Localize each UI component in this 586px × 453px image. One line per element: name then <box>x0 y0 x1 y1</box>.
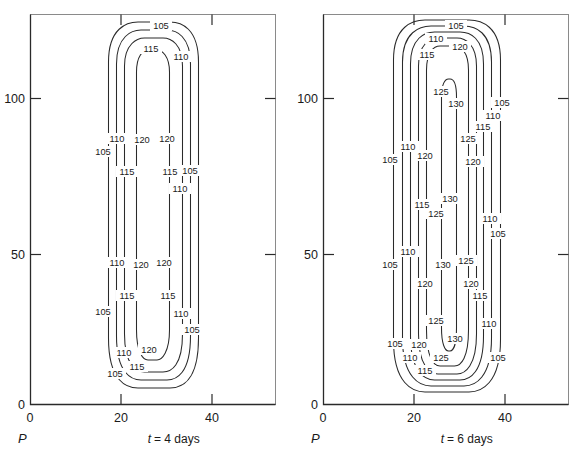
contour-label-left-7: 115 <box>116 166 138 177</box>
svg-text:130: 130 <box>447 334 463 344</box>
figure-contour-pair: 100 50 0 0 20 40 P t = 4 days <box>0 0 586 453</box>
contour-label-right-13: 120 <box>462 156 484 167</box>
svg-text:105: 105 <box>184 325 200 335</box>
svg-text:105: 105 <box>95 307 111 317</box>
contour-label-group-right: 105 110 120 115 125 130 105 110 115 125 … <box>379 20 513 376</box>
svg-text:120: 120 <box>134 135 150 145</box>
svg-text:125: 125 <box>433 87 449 97</box>
contour-120-left <box>137 50 170 360</box>
contour-label-left-5: 120 <box>156 133 178 144</box>
caption-var-right: t <box>441 432 445 446</box>
svg-text:105: 105 <box>382 155 398 165</box>
contour-label-right-6: 105 <box>491 97 513 108</box>
contour-label-right-3: 115 <box>416 49 438 60</box>
contour-label-left-4: 120 <box>131 134 153 145</box>
contour-label-right-4: 125 <box>430 86 452 97</box>
xaxis-name-right: P <box>311 431 320 446</box>
contour-label-right-23: 120 <box>414 278 436 289</box>
svg-text:105: 105 <box>448 21 464 31</box>
svg-text:110: 110 <box>401 142 416 152</box>
xtick-label-20-left: 20 <box>114 411 128 425</box>
svg-text:120: 120 <box>133 260 149 270</box>
svg-text:105: 105 <box>382 260 398 270</box>
xtick-label-0-right: 0 <box>320 411 327 425</box>
svg-text:110: 110 <box>173 184 188 194</box>
contour-label-right-8: 115 <box>472 121 494 132</box>
contour-110-left <box>117 30 191 380</box>
contour-label-right-2: 120 <box>449 41 471 52</box>
svg-text:105: 105 <box>387 339 403 349</box>
svg-text:120: 120 <box>452 42 468 52</box>
svg-text:110: 110 <box>117 348 132 358</box>
contour-label-left-12: 120 <box>130 259 152 270</box>
contour-label-left-15: 115 <box>157 290 179 301</box>
svg-text:125: 125 <box>460 134 476 144</box>
svg-text:120: 120 <box>159 134 175 144</box>
caption-var-left: t <box>148 432 152 446</box>
svg-text:105: 105 <box>95 147 111 157</box>
caption-text-left: = 4 days <box>154 432 200 446</box>
svg-text:115: 115 <box>473 291 488 301</box>
svg-text:105: 105 <box>153 21 169 31</box>
contour-label-right-18: 130 <box>439 193 461 204</box>
svg-text:110: 110 <box>483 214 498 224</box>
plot-area-left: 100 50 0 0 20 40 P t = 4 days <box>0 0 293 453</box>
contour-label-left-2: 110 <box>170 51 192 62</box>
svg-text:110: 110 <box>482 319 497 329</box>
svg-text:130: 130 <box>448 99 464 109</box>
svg-text:110: 110 <box>401 247 416 257</box>
ytick-label-50-right: 50 <box>304 248 318 262</box>
ytick-label-0-right: 0 <box>311 398 318 412</box>
contour-label-right-22: 125 <box>455 255 477 266</box>
contour-label-right-11: 120 <box>414 150 436 161</box>
svg-text:110: 110 <box>174 309 189 319</box>
svg-text:120: 120 <box>156 258 172 268</box>
contour-label-right-0: 105 <box>445 20 467 31</box>
xaxis-name-left: P <box>18 431 27 446</box>
contour-label-left-11: 110 <box>106 257 128 268</box>
svg-text:105: 105 <box>107 369 123 379</box>
contour-label-right-32: 125 <box>430 352 452 363</box>
contour-label-left-10: 110 <box>169 183 191 194</box>
svg-text:110: 110 <box>403 353 418 363</box>
contour-label-left-14: 115 <box>116 290 138 301</box>
contour-label-right-25: 115 <box>469 290 491 301</box>
svg-text:115: 115 <box>120 167 135 177</box>
svg-text:130: 130 <box>442 194 458 204</box>
contour-label-left-1: 115 <box>140 43 162 54</box>
contour-label-right-7: 110 <box>482 110 504 121</box>
svg-text:120: 120 <box>411 340 427 350</box>
contour-label-right-33: 105 <box>487 352 509 363</box>
svg-text:110: 110 <box>110 134 125 144</box>
svg-text:115: 115 <box>144 44 159 54</box>
contour-label-right-24: 120 <box>460 278 482 289</box>
contour-label-right-15: 125 <box>425 208 447 219</box>
xtick-label-40-left: 40 <box>205 411 219 425</box>
svg-text:130: 130 <box>435 260 451 270</box>
plot-area-right: 100 50 0 0 20 40 P t = 6 days <box>293 0 586 453</box>
contour-label-left-3: 110 <box>106 133 128 144</box>
svg-text:115: 115 <box>161 291 176 301</box>
ytick-label-50-left: 50 <box>11 248 25 262</box>
contour-115-left <box>125 38 183 372</box>
svg-text:125: 125 <box>428 209 444 219</box>
contour-label-right-20: 105 <box>379 259 401 270</box>
svg-text:105: 105 <box>490 229 506 239</box>
contour-label-right-5: 130 <box>445 98 467 109</box>
ytick-label-100-left: 100 <box>4 92 25 106</box>
contour-label-right-21: 130 <box>432 259 454 270</box>
xtick-label-40-right: 40 <box>498 411 512 425</box>
contour-label-right-28: 110 <box>478 318 500 329</box>
contour-label-left-8: 115 <box>159 166 181 177</box>
xtick-label-20-right: 20 <box>407 411 421 425</box>
contour-label-right-30: 120 <box>408 339 430 350</box>
ytick-label-0-left: 0 <box>18 398 25 412</box>
contour-label-left-20: 120 <box>138 344 160 355</box>
contour-label-right-1: 110 <box>425 33 447 44</box>
svg-text:125: 125 <box>458 256 474 266</box>
contour-label-right-34: 115 <box>414 365 436 376</box>
caption-text-right: = 6 days <box>447 432 493 446</box>
svg-text:110: 110 <box>429 34 444 44</box>
contour-label-right-26: 125 <box>425 315 447 326</box>
contour-label-left-16: 105 <box>92 306 114 317</box>
